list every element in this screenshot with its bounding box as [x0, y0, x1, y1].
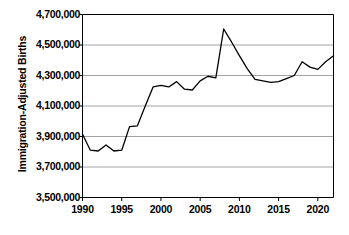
- x-tick-label: 2020: [298, 203, 338, 215]
- x-tick-label: 2010: [219, 203, 259, 215]
- x-axis-tick-labels: 1990199520002005201020152020: [0, 0, 349, 235]
- x-tick-label: 2005: [180, 203, 220, 215]
- x-tick-label: 2000: [141, 203, 181, 215]
- x-tick-label: 1995: [102, 203, 142, 215]
- x-tick-label: 2015: [259, 203, 299, 215]
- x-tick-label: 1990: [63, 203, 103, 215]
- chart-container: Immigration-Adjusted Births 3,500,0003,7…: [0, 0, 349, 235]
